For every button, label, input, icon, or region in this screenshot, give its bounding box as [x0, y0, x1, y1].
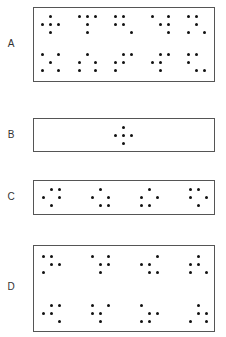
pattern-dot — [99, 188, 102, 191]
pattern-dot — [99, 312, 102, 315]
pattern-dot — [114, 61, 117, 64]
pattern-dot — [187, 15, 190, 18]
pattern-dot — [167, 53, 170, 56]
pattern-dot — [99, 204, 102, 207]
pattern-dot — [159, 53, 162, 56]
pattern-dot — [58, 196, 61, 199]
panel-a-label: A — [5, 38, 17, 49]
pattern-dot — [99, 320, 102, 323]
pattern-dot — [41, 69, 44, 72]
pattern-dot — [205, 320, 208, 323]
pattern-dot — [148, 320, 151, 323]
pattern-dot — [151, 61, 154, 64]
pattern-dot — [197, 188, 200, 191]
pattern-dot — [140, 196, 143, 199]
pattern-dot — [49, 15, 52, 18]
pattern-dot — [159, 61, 162, 64]
pattern-dot — [114, 15, 117, 18]
pattern-dot — [91, 312, 94, 315]
pattern-dot — [42, 196, 45, 199]
pattern-dot — [197, 255, 200, 258]
pattern-dot — [50, 263, 53, 266]
pattern-dot — [86, 15, 89, 18]
pattern-dot — [42, 255, 45, 258]
pattern-dot — [57, 53, 60, 56]
pattern-dot — [159, 69, 162, 72]
pattern-dot — [86, 31, 89, 34]
pattern-dot — [151, 15, 154, 18]
pattern-dot — [195, 23, 198, 26]
pattern-dot — [167, 23, 170, 26]
pattern-dot — [197, 263, 200, 266]
panel-b-label: B — [5, 129, 17, 140]
pattern-dot — [99, 263, 102, 266]
pattern-dot — [187, 53, 190, 56]
pattern-dot — [107, 263, 110, 266]
pattern-dot — [148, 263, 151, 266]
pattern-dot — [189, 271, 192, 274]
pattern-dot — [156, 255, 159, 258]
pattern-dot — [148, 271, 151, 274]
pattern-dot — [205, 271, 208, 274]
pattern-dot — [94, 61, 97, 64]
pattern-dot — [78, 61, 81, 64]
pattern-dot — [114, 69, 117, 72]
pattern-dot — [195, 69, 198, 72]
pattern-dot — [156, 196, 159, 199]
pattern-dot — [130, 31, 133, 34]
pattern-dot — [49, 31, 52, 34]
pattern-dot — [42, 271, 45, 274]
pattern-dot — [187, 31, 190, 34]
pattern-dot — [156, 271, 159, 274]
pattern-dot — [57, 23, 60, 26]
pattern-dot — [148, 188, 151, 191]
pattern-dot — [195, 53, 198, 56]
pattern-dot — [122, 134, 125, 137]
panel-a-box — [33, 7, 215, 82]
pattern-dot — [167, 31, 170, 34]
pattern-dot — [107, 196, 110, 199]
pattern-dot — [50, 188, 53, 191]
pattern-dot — [50, 255, 53, 258]
pattern-dot — [189, 188, 192, 191]
pattern-dot — [91, 304, 94, 307]
pattern-dot — [107, 204, 110, 207]
pattern-dot — [130, 53, 133, 56]
pattern-dot — [58, 320, 61, 323]
pattern-dot — [78, 15, 81, 18]
pattern-dot — [197, 304, 200, 307]
pattern-dot — [205, 196, 208, 199]
pattern-dot — [57, 69, 60, 72]
pattern-dot — [41, 53, 44, 56]
pattern-dot — [122, 126, 125, 129]
pattern-dot — [148, 204, 151, 207]
pattern-dot — [91, 255, 94, 258]
pattern-dot — [94, 69, 97, 72]
pattern-dot — [130, 134, 133, 137]
pattern-dot — [159, 23, 162, 26]
pattern-dot — [195, 15, 198, 18]
pattern-dot — [197, 204, 200, 207]
pattern-dot — [122, 23, 125, 26]
pattern-dot — [122, 53, 125, 56]
pattern-dot — [189, 196, 192, 199]
pattern-dot — [114, 23, 117, 26]
pattern-dot — [205, 312, 208, 315]
pattern-dot — [42, 312, 45, 315]
pattern-dot — [122, 142, 125, 145]
panel-d-box — [33, 245, 215, 332]
pattern-dot — [114, 134, 117, 137]
pattern-dot — [78, 69, 81, 72]
panel-c-label: C — [5, 191, 17, 202]
pattern-dot — [122, 15, 125, 18]
pattern-dot — [122, 61, 125, 64]
pattern-dot — [189, 263, 192, 266]
pattern-dot — [50, 312, 53, 315]
pattern-dot — [49, 23, 52, 26]
pattern-dot — [86, 53, 89, 56]
pattern-dot — [140, 304, 143, 307]
pattern-dot — [156, 312, 159, 315]
pattern-dot — [58, 263, 61, 266]
pattern-dot — [49, 61, 52, 64]
pattern-dot — [187, 61, 190, 64]
